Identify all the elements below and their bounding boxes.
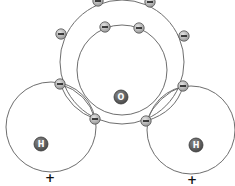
minus-sign-icon bbox=[136, 27, 142, 29]
electron-outer-right bbox=[179, 31, 189, 41]
nucleus-symbol: H bbox=[38, 140, 45, 149]
electron-outer-top-left bbox=[93, 0, 103, 6]
minus-sign-icon bbox=[181, 35, 187, 37]
electron-bond-right-lower bbox=[141, 116, 151, 126]
electron-inner-1 bbox=[100, 22, 110, 32]
positive-charge-charge-right: + bbox=[187, 173, 197, 186]
minus-sign-icon bbox=[180, 85, 186, 87]
minus-sign-icon bbox=[57, 83, 63, 85]
charge-layer: ++ bbox=[45, 171, 197, 186]
water-molecule-diagram: OHH ++ bbox=[0, 0, 235, 186]
electron-bond-left-upper bbox=[55, 79, 65, 89]
electron-outer-top-right bbox=[145, 0, 155, 7]
nucleus-hydrogen-right: H bbox=[189, 138, 203, 152]
orbit-hydrogen-right-shell bbox=[147, 86, 235, 174]
orbit-oxygen-outer bbox=[60, 0, 184, 124]
electron-inner-2 bbox=[134, 23, 144, 33]
electron-bond-right-upper bbox=[178, 81, 188, 91]
electron-icon bbox=[145, 0, 155, 7]
nucleus-symbol: O bbox=[118, 93, 125, 102]
minus-sign-icon bbox=[58, 33, 64, 35]
nucleus-oxygen: O bbox=[114, 90, 128, 104]
positive-charge-charge-left: + bbox=[45, 171, 55, 185]
orbit-hydrogen-left-shell bbox=[6, 82, 96, 172]
electron-outer-left bbox=[56, 29, 66, 39]
nucleus-symbol: H bbox=[193, 141, 200, 150]
minus-sign-icon bbox=[147, 1, 153, 3]
electron-bond-left-lower bbox=[90, 114, 100, 124]
nucleus-hydrogen-left: H bbox=[34, 137, 48, 151]
minus-sign-icon bbox=[102, 26, 108, 28]
minus-sign-icon bbox=[92, 118, 98, 120]
minus-sign-icon bbox=[143, 120, 149, 122]
minus-sign-icon bbox=[95, 0, 101, 2]
